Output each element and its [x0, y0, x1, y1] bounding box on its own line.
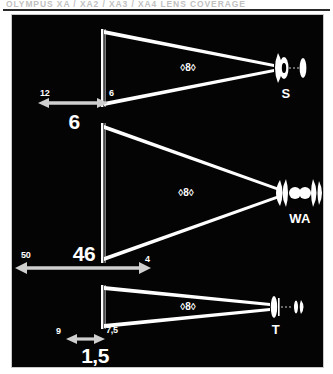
lens-label-telephoto: T [272, 323, 280, 336]
cone-ray-lower-wa [104, 194, 282, 261]
page-root: OLYMPUS XA / XA2 / XA3 / XA4 LENS COVERA… [0, 0, 333, 374]
standard-lens-icon [275, 53, 306, 83]
film-plane-shadow-telephoto [104, 285, 106, 329]
cone-ray-lower-standard [104, 69, 274, 106]
caption-divider [3, 9, 330, 11]
dimension-left-standard: 12 [40, 89, 50, 98]
dimension-right-telephoto: 7,5 [106, 326, 118, 335]
dimension-arrow-standard [38, 98, 108, 108]
dimension-right-wa: 4 [145, 255, 150, 264]
dimension-main-telephoto: 1,5 [81, 345, 109, 366]
fov-marker-telephoto: ◊8◊ [180, 302, 195, 312]
dimension-arrow-telephoto [66, 334, 105, 344]
dimension-right-standard: 6 [109, 89, 114, 98]
section-standard [38, 29, 306, 108]
film-plane-shadow-standard [104, 29, 106, 107]
lens-label-standard: S [281, 87, 290, 100]
lens-label-wa: WA [289, 212, 311, 225]
film-plane-line-telephoto [101, 285, 103, 329]
dimension-main-standard: 6 [68, 111, 79, 132]
dimension-main-wa: 46 [73, 243, 95, 264]
fov-marker-wa: ◊8◊ [178, 188, 193, 198]
lens-coverage-diagram [12, 15, 323, 367]
cone-ray-upper-wa [104, 125, 282, 192]
dimension-left-telephoto: 9 [56, 327, 61, 336]
dimension-left-wa: 50 [21, 251, 31, 260]
film-plane-line-wa [101, 123, 103, 263]
telephoto-lens-icon [271, 296, 304, 318]
section-wide-angle [15, 123, 322, 274]
fov-marker-standard: ◊8◊ [180, 63, 195, 73]
wide-angle-lens-icon [276, 179, 322, 207]
film-plane-line-standard [101, 29, 103, 107]
film-plane-shadow-wa [104, 123, 106, 263]
figure-caption: OLYMPUS XA / XA2 / XA3 / XA4 LENS COVERA… [0, 0, 333, 9]
section-telephoto [66, 285, 304, 344]
figure-canvas: 12 6 6 ◊8◊ S 50 4 46 ◊8◊ WA 9 7,5 1,5 ◊8… [12, 15, 323, 367]
figure-panel: 12 6 6 ◊8◊ S 50 4 46 ◊8◊ WA 9 7,5 1,5 ◊8… [11, 14, 324, 368]
